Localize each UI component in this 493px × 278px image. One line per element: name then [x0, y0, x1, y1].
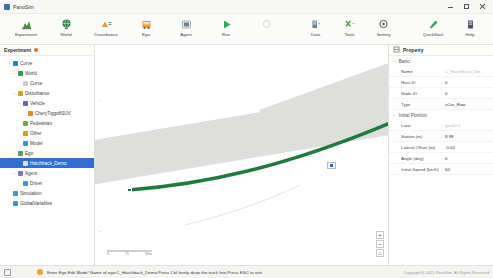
ribbon-label-run: Run: [222, 32, 230, 38]
property-row-value[interactable]: 8.99: [445, 134, 493, 139]
zoom-out-button[interactable]: −: [376, 240, 384, 248]
scale-tick-15: 15: [125, 252, 129, 256]
ribbon-label-quickstart: QuickStart: [423, 32, 444, 38]
property-row-value[interactable]: 60: [445, 167, 493, 172]
run-icon: [220, 18, 233, 31]
property-row-value[interactable]: 0: [445, 156, 493, 161]
tree-node[interactable]: −World: [0, 68, 94, 78]
track-start-node[interactable]: [127, 188, 132, 192]
property-section-title: Initial Position: [399, 113, 427, 118]
ribbon-label-experiment: Experiment: [15, 32, 37, 38]
property-row-value[interactable]: geoID:1: [445, 123, 493, 128]
tree-node[interactable]: Simulation: [0, 188, 94, 198]
tree-node-label: Ego: [25, 151, 33, 156]
map-canvas[interactable]: • • 0 15 30m + −: [95, 45, 389, 265]
tree-node[interactable]: −Curve: [0, 58, 94, 68]
tree-node[interactable]: Model: [0, 138, 94, 148]
setting-icon: [377, 18, 390, 31]
property-row-value[interactable]: 0: [445, 80, 493, 85]
disturbance-icon: [100, 18, 113, 31]
tree-node[interactable]: −Disturbance: [0, 88, 94, 98]
tree-node-label: Simulation: [20, 191, 41, 196]
title-bar: PanoSim: [0, 0, 493, 14]
minimize-button-icon[interactable]: [447, 3, 454, 10]
property-section-header[interactable]: −Basic: [389, 56, 493, 66]
ribbon-button-world[interactable]: World: [46, 16, 86, 38]
property-row-label: Host ID: [401, 80, 445, 85]
experiment-tree-title: Experiment: [4, 47, 31, 53]
property-row-value[interactable]: vCar_Raw: [445, 102, 493, 107]
tree-node[interactable]: Curve: [0, 78, 94, 88]
track-line[interactable]: [95, 45, 389, 265]
zoom-in-button[interactable]: +: [376, 231, 384, 239]
tree-node[interactable]: Hatchback_Demo: [0, 158, 94, 168]
zoom-reset-button[interactable]: ⌂: [376, 249, 384, 257]
status-bar: Enter Ego Edit Mode! Name of ego:C_Hatch…: [0, 265, 493, 278]
window-title: PanoSim: [13, 4, 34, 10]
property-section-title: Basic: [399, 59, 410, 64]
tree-node[interactable]: GlobalVariables: [0, 198, 94, 208]
ego-vehicle-marker[interactable]: [327, 162, 336, 169]
property-row-value[interactable]: 0: [445, 91, 493, 96]
tree-node[interactable]: Pedestrian: [0, 118, 94, 128]
property-row-value[interactable]: C_Hatchback_Dm: [445, 69, 493, 74]
warning-icon: [37, 269, 43, 275]
tree-node[interactable]: −Agent: [0, 168, 94, 178]
ribbon-button-ego[interactable]: Ego: [126, 16, 166, 38]
property-row-label: Lane: [401, 123, 445, 128]
tree-node-icon: [27, 110, 33, 116]
property-section-header[interactable]: −Initial Position: [389, 110, 493, 120]
ribbon-group-far: QuickStart Help: [413, 16, 487, 38]
tree-node-icon: [17, 170, 23, 176]
property-row: Initial Speed (km/h)60: [389, 164, 493, 175]
quickstart-icon: [427, 18, 440, 31]
ribbon-button-quickstart[interactable]: QuickStart: [413, 16, 453, 38]
property-row-value[interactable]: -0.02: [445, 145, 493, 150]
app-logo-icon: [4, 4, 10, 10]
section-collapse-icon[interactable]: −: [393, 113, 396, 118]
ribbon-button-run[interactable]: Run: [206, 16, 246, 38]
ribbon-button-stop[interactable]: [246, 16, 286, 32]
scale-tick-30: 30m: [145, 252, 152, 256]
tree-node-icon: [17, 150, 23, 156]
tree-node[interactable]: CheryTiggo8SUV: [0, 108, 94, 118]
main-body: Experiment −Curve−WorldCurve−Disturbance…: [0, 45, 493, 265]
tree-node[interactable]: −Vehicle: [0, 98, 94, 108]
ego-icon: [140, 18, 153, 31]
tree-node-label: CheryTiggo8SUV: [35, 111, 71, 116]
property-row-label: Initial Speed (km/h): [401, 167, 445, 172]
property-row: LanegeoID:1: [389, 120, 493, 131]
ribbon-label-world: World: [60, 32, 71, 38]
maximize-button-icon[interactable]: [463, 3, 470, 10]
ribbon-button-tools[interactable]: Tools: [333, 16, 367, 38]
ribbon-button-experiment[interactable]: Experiment: [6, 16, 46, 38]
tree-node-label: Agent: [25, 171, 37, 176]
tree-node-icon: [22, 100, 28, 106]
tree-node-icon: [17, 90, 23, 96]
section-collapse-icon[interactable]: −: [393, 59, 396, 64]
tree-node[interactable]: Other: [0, 128, 94, 138]
tree-node-icon: [22, 80, 28, 86]
experiment-tree-list: −Curve−WorldCurve−Disturbance−VehicleChe…: [0, 56, 94, 208]
modified-indicator-icon: [34, 48, 38, 52]
ribbon-button-setting[interactable]: Setting: [367, 16, 401, 38]
property-row: Host ID0: [389, 77, 493, 88]
close-button-icon[interactable]: [479, 3, 486, 10]
ribbon-button-agent[interactable]: Agent: [166, 16, 206, 38]
property-panel-title: Property: [403, 47, 424, 53]
property-panel: Property −BasicNameC_Hatchback_DmHost ID…: [389, 45, 493, 265]
ribbon-toolbar: Experiment World: [0, 14, 493, 45]
tree-node[interactable]: Driver: [0, 178, 94, 188]
tree-node-label: World: [25, 71, 37, 76]
ribbon-group-left: Experiment World: [6, 16, 286, 38]
ribbon-label-disturbance: Disturbance: [94, 32, 117, 38]
property-row-label: Station (m): [401, 134, 445, 139]
ribbon-button-disturbance[interactable]: Disturbance: [86, 16, 126, 38]
ego-vehicle-dot-icon: [330, 164, 333, 167]
property-row-label: Angle (deg): [401, 156, 445, 161]
ribbon-button-data[interactable]: Data: [299, 16, 333, 38]
ribbon-button-help[interactable]: Help: [453, 16, 487, 38]
tree-node[interactable]: −Ego: [0, 148, 94, 158]
tree-node-label: Curve: [30, 81, 42, 86]
property-row: TypevCar_Raw: [389, 99, 493, 110]
